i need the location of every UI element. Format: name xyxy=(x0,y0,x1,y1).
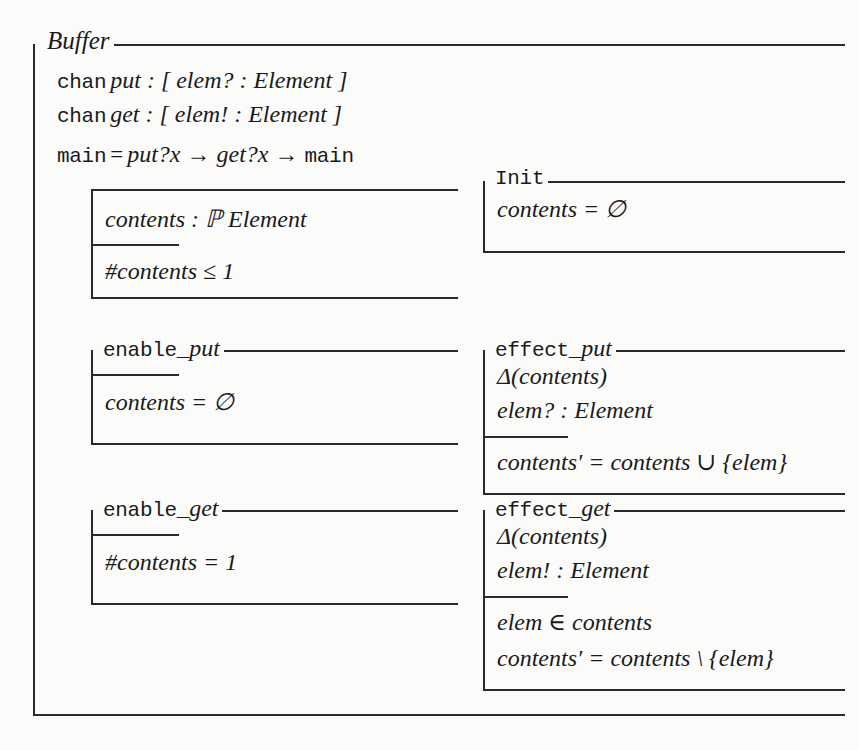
init-schema-left-rule xyxy=(483,181,485,253)
effect-get-predicate-membership: elem ∈ contents xyxy=(497,610,652,634)
effect-get-predicate-update: contents′ = contents \ {elem} xyxy=(497,646,774,670)
enable-put-title-suffix: put xyxy=(189,335,220,361)
init-schema-box: Init contents = ∅ xyxy=(483,181,845,253)
chan-put-keyword: chan xyxy=(57,71,106,94)
enable-get-schema-box: enable_get #contents = 1 xyxy=(91,510,458,605)
chan-get-body: get : [ elem! : Element ] xyxy=(110,101,342,127)
enable-get-divider-rule xyxy=(91,534,179,536)
enable-put-bottom-rule xyxy=(91,443,458,445)
buffer-left-rule xyxy=(33,44,35,716)
effect-put-predicate: contents′ = contents ∪ {elem} xyxy=(497,450,787,474)
init-schema-declaration: contents = ∅ xyxy=(497,197,626,221)
buffer-schema-title: Buffer xyxy=(37,28,114,53)
init-schema-title: Init xyxy=(485,168,548,189)
main-process-definition: main = put?x → get?x → main xyxy=(57,142,354,167)
effect-put-title-prefix: effect_ xyxy=(495,339,581,362)
state-schema-bottom-rule xyxy=(91,297,458,299)
state-schema-declaration: contents : ℙ Element xyxy=(105,207,307,231)
main-keyword: main xyxy=(57,145,106,168)
buffer-bottom-rule xyxy=(33,714,845,716)
enable-put-divider-rule xyxy=(91,374,179,376)
effect-put-schema-title: effect_put xyxy=(485,336,616,361)
effect-put-title-suffix: put xyxy=(581,335,612,361)
effect-put-bottom-rule xyxy=(483,493,845,495)
state-schema-top-rule xyxy=(91,189,458,191)
enable-put-schema-box: enable_put contents = ∅ xyxy=(91,350,458,445)
effect-get-title-suffix: get xyxy=(581,495,610,521)
effect-get-title-prefix: effect_ xyxy=(495,499,581,522)
enable-put-schema-title: enable_put xyxy=(93,336,224,361)
main-process-body: put?x → get?x → xyxy=(127,141,304,167)
chan-put-body: put : [ elem? : Element ] xyxy=(110,67,347,93)
enable-get-title-suffix: get xyxy=(189,495,218,521)
effect-get-left-rule xyxy=(483,510,485,691)
buffer-top-rule xyxy=(41,44,845,46)
state-schema-predicate: #contents ≤ 1 xyxy=(105,259,234,283)
effect-get-divider-rule xyxy=(483,596,568,598)
effect-put-schema-box: effect_put Δ(contents) elem? : Element c… xyxy=(483,350,845,495)
effect-get-declaration-elem: elem! : Element xyxy=(497,558,649,582)
effect-get-schema-title: effect_get xyxy=(485,496,614,521)
main-process-tail: main xyxy=(305,145,354,168)
enable-get-predicate: #contents = 1 xyxy=(105,550,237,574)
effect-get-bottom-rule xyxy=(483,689,845,691)
buffer-schema-box: Buffer chan put : [ elem? : Element ] ch… xyxy=(33,44,845,716)
main-equals-sign: = xyxy=(110,142,123,167)
enable-put-predicate: contents = ∅ xyxy=(105,390,234,414)
chan-put-declaration: chan put : [ elem? : Element ] xyxy=(57,68,348,93)
effect-get-schema-box: effect_get Δ(contents) elem! : Element e… xyxy=(483,510,845,691)
enable-get-left-rule xyxy=(91,510,93,605)
enable-get-bottom-rule xyxy=(91,603,458,605)
effect-put-left-rule xyxy=(483,350,485,495)
chan-get-keyword: chan xyxy=(57,105,106,128)
chan-get-declaration: chan get : [ elem! : Element ] xyxy=(57,102,342,127)
state-schema-divider-rule xyxy=(91,244,179,246)
effect-put-declaration-delta: Δ(contents) xyxy=(497,364,607,388)
state-schema-box: contents : ℙ Element #contents ≤ 1 xyxy=(91,189,458,299)
enable-get-schema-title: enable_get xyxy=(93,496,222,521)
init-schema-bottom-rule xyxy=(483,251,845,253)
enable-get-title-prefix: enable_ xyxy=(103,499,189,522)
effect-get-declaration-delta: Δ(contents) xyxy=(497,524,607,548)
effect-put-divider-rule xyxy=(483,436,568,438)
enable-put-title-prefix: enable_ xyxy=(103,339,189,362)
effect-put-declaration-elem: elem? : Element xyxy=(497,398,653,422)
enable-put-left-rule xyxy=(91,350,93,445)
